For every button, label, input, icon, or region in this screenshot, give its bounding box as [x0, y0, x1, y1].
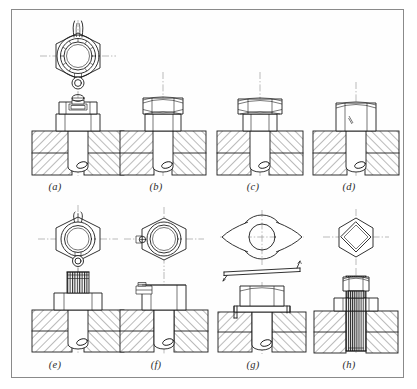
figure-label-e: (e)	[35, 359, 75, 370]
figure-e-front-view	[32, 268, 124, 354]
figure-label-f: (f)	[136, 359, 176, 370]
figure-h-top-view	[323, 209, 389, 265]
figure-e-top-view	[38, 205, 118, 273]
figure-h-front-view	[314, 268, 398, 354]
figure-e	[32, 205, 124, 354]
figure-label-c: (c)	[233, 181, 273, 192]
figure-label-h: (h)	[329, 359, 369, 370]
figure-label-g: (g)	[233, 359, 273, 370]
figure-d	[313, 82, 399, 176]
figure-label-a: (a)	[35, 181, 75, 192]
figure-f	[120, 207, 208, 354]
figure-g	[218, 210, 306, 354]
figure-label-d: (d)	[329, 181, 369, 192]
figure-f-top-view	[124, 207, 204, 271]
figure-f-front-view	[120, 272, 208, 354]
figure-a-front-view	[32, 92, 124, 176]
engineering-drawing-canvas	[12, 10, 403, 377]
figure-a	[32, 20, 124, 176]
figure-h	[314, 209, 398, 354]
figure-g-front-view	[218, 282, 306, 354]
figure-label-b: (b)	[136, 181, 176, 192]
figure-border: (a) (b) (c) (d) (e) (f) (g) (h)	[11, 9, 404, 378]
figure-b	[120, 72, 206, 176]
figure-c	[217, 72, 303, 176]
figure-g-washer-plan	[220, 210, 304, 265]
figure-a-top-view	[40, 20, 116, 94]
